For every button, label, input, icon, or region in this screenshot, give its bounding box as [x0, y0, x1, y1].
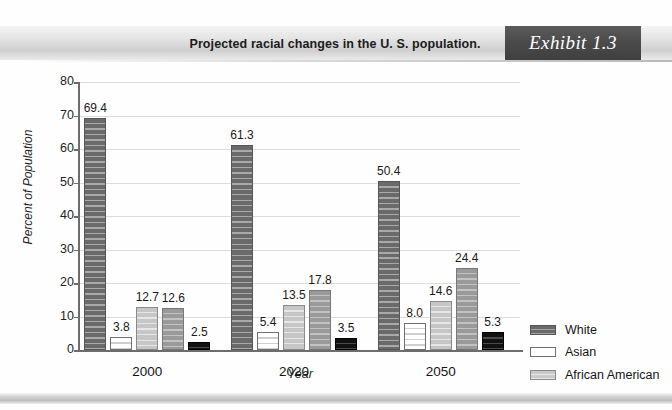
bar-2050-asian — [404, 323, 426, 350]
bar-value-label: 24.4 — [445, 251, 489, 265]
plot-area: 69.43.812.712.62.561.35.413.517.83.550.4… — [80, 82, 520, 350]
legend-swatch-icon — [530, 325, 556, 335]
gridline — [80, 216, 520, 217]
gridline — [80, 116, 520, 117]
bar-value-label: 12.6 — [151, 291, 195, 305]
footer-band — [0, 392, 672, 404]
bar-2000-asian — [110, 337, 132, 350]
y-axis-tick-20: 20 — [38, 275, 74, 289]
bar-2020-other-races — [335, 338, 357, 350]
legend-swatch-icon — [530, 347, 556, 357]
page-title: Projected racial changes in the U. S. po… — [172, 33, 498, 55]
x-axis-category-2000: 2000 — [102, 364, 192, 379]
x-axis-category-2050: 2050 — [396, 364, 486, 379]
y-axis-tick-50: 50 — [38, 175, 74, 189]
y-axis-label: Percent of Population — [21, 117, 35, 257]
bar-2020-asian — [257, 332, 279, 350]
chart-area: 01020304050607080 Percent of Population … — [0, 62, 672, 382]
legend-item-white: White — [530, 320, 670, 339]
y-axis-tick-0: 0 — [38, 342, 74, 356]
gridline — [80, 82, 520, 83]
bar-value-label: 69.4 — [73, 101, 117, 115]
bar-value-label: 5.3 — [471, 315, 515, 329]
bar-2020-african-american — [283, 305, 305, 350]
gridline — [80, 183, 520, 184]
legend-item-african-american: African American — [530, 365, 670, 384]
legend-label: Asian — [565, 345, 596, 359]
bar-value-label: 17.8 — [298, 273, 342, 287]
bar-2050-african-american — [430, 301, 452, 350]
exhibit-label: Exhibit 1.3 — [529, 32, 617, 54]
legend-item-asian: Asian — [530, 343, 670, 362]
bar-2050-white — [378, 181, 400, 350]
bar-value-label: 2.5 — [177, 325, 221, 339]
legend-label: African American — [565, 368, 659, 382]
x-axis-category-2020: 2020 — [249, 364, 339, 379]
y-axis-tick-60: 60 — [38, 141, 74, 155]
bar-value-label: 50.4 — [367, 164, 411, 178]
y-axis-tick-80: 80 — [38, 74, 74, 88]
y-axis-tick-70: 70 — [38, 108, 74, 122]
bar-2020-hispanic — [309, 290, 331, 350]
bar-2050-other-races — [482, 332, 504, 350]
bar-2000-african-american — [136, 307, 158, 350]
bar-2000-other-races — [188, 342, 210, 350]
exhibit-badge: Exhibit 1.3 — [505, 26, 641, 60]
legend-swatch-icon — [530, 370, 556, 380]
bar-value-label: 61.3 — [220, 128, 264, 142]
gridline — [80, 149, 520, 150]
y-axis-tick-30: 30 — [38, 242, 74, 256]
y-axis-tick-40: 40 — [38, 208, 74, 222]
bar-2050-hispanic — [456, 268, 478, 350]
exhibit-page: Projected racial changes in the U. S. po… — [0, 0, 672, 410]
bar-value-label: 3.5 — [324, 321, 368, 335]
legend-label: White — [565, 323, 597, 337]
bar-2000-white — [84, 118, 106, 350]
x-axis-line — [78, 350, 523, 352]
y-axis-tick-10: 10 — [38, 309, 74, 323]
